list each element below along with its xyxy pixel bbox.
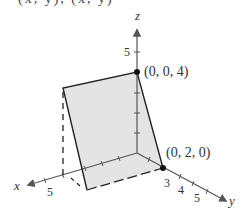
point-label-0-0-4: (0, 0, 4) <box>144 64 189 80</box>
y-axis-tick-5: 5 <box>194 191 200 205</box>
hidden-base-dashed <box>71 178 80 186</box>
y-axis-tick-4: 4 <box>178 183 184 197</box>
3d-plane-diagram: z 5 x 5 3 4 5 y (0, 0, 4) (0, 2, 0) <box>0 0 241 216</box>
point-0-0-4 <box>134 69 140 75</box>
point-0-2-0 <box>160 165 166 171</box>
x-axis-tick-5: 5 <box>47 185 53 199</box>
x-axis-label: x <box>13 178 20 193</box>
z-axis-label: z <box>134 8 140 23</box>
y-axis-label: y <box>227 193 235 208</box>
z-axis-tick-5: 5 <box>124 45 130 59</box>
point-label-0-2-0: (0, 2, 0) <box>166 145 211 161</box>
y-axis-tick-3: 3 <box>164 176 170 190</box>
